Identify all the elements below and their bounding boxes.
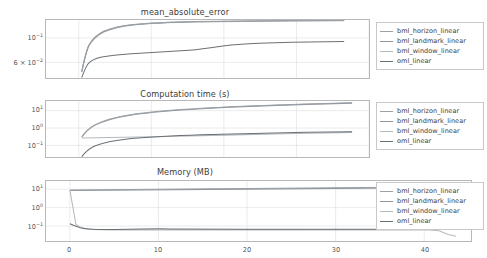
y-tick-label: 100 — [32, 204, 43, 212]
plot-svg — [46, 101, 369, 157]
legend: bml_horizon_linear bml_landmark_linear b… — [376, 102, 484, 150]
y-tick-label: 100 — [32, 124, 43, 132]
line-bml_window_linear — [82, 21, 344, 73]
y-tick-label: 10−1 — [28, 34, 43, 42]
legend-label: bml_window_linear — [397, 207, 460, 215]
y-axis-ticks: 101 100 10−1 — [0, 180, 43, 242]
legend-swatch-icon — [380, 131, 393, 132]
legend-item[interactable]: bml_landmark_linear — [380, 36, 479, 46]
line-bml_horizon_linear — [82, 103, 352, 137]
legend-swatch-icon — [380, 121, 393, 122]
panel-title: Memory (MB) — [0, 167, 370, 177]
legend: bml_horizon_linear bml_landmark_linear b… — [376, 182, 484, 230]
panel-title: Computation time (s) — [0, 89, 370, 99]
legend-label: bml_landmark_linear — [397, 197, 466, 205]
legend-item[interactable]: oml_linear — [380, 56, 479, 66]
y-tick-label: 10−1 — [28, 142, 43, 150]
gridlines — [46, 20, 369, 78]
panel-computation-time: Computation time (s) 101 100 10−1 — [0, 86, 487, 166]
legend-label: bml_window_linear — [397, 47, 460, 55]
legend-label: oml_linear — [397, 57, 431, 65]
y-tick-label: 101 — [32, 106, 43, 114]
legend-swatch-icon — [380, 41, 393, 42]
line-bml_window_linear — [82, 132, 352, 138]
x-tick-label: 40 — [421, 246, 429, 254]
legend-item[interactable]: bml_window_linear — [380, 126, 479, 136]
legend-swatch-icon — [380, 221, 393, 222]
plot-area — [45, 100, 370, 158]
legend-item[interactable]: bml_horizon_linear — [380, 186, 479, 196]
legend: bml_horizon_linear bml_landmark_linear b… — [376, 22, 484, 70]
legend-item[interactable]: oml_linear — [380, 136, 479, 146]
legend-item[interactable]: bml_horizon_linear — [380, 26, 479, 36]
legend-label: bml_landmark_linear — [397, 37, 466, 45]
legend-label: oml_linear — [397, 137, 431, 145]
legend-item[interactable]: bml_window_linear — [380, 206, 479, 216]
plot-area — [45, 19, 370, 79]
legend-label: bml_horizon_linear — [397, 107, 459, 115]
legend-swatch-icon — [380, 201, 393, 202]
x-tick-label: 0 — [67, 246, 71, 254]
y-tick-label: 10−1 — [28, 223, 43, 231]
legend-swatch-icon — [380, 61, 393, 62]
x-tick-label: 20 — [243, 246, 251, 254]
legend-label: bml_window_linear — [397, 127, 460, 135]
plot-svg — [46, 20, 369, 78]
panel-memory: Memory (MB) 101 100 10−1 — [0, 166, 487, 258]
legend-item[interactable]: oml_linear — [380, 216, 479, 226]
y-tick-label: 6 × 10−2 — [14, 59, 43, 67]
benchmark-figure: mean_absolute_error 10−1 6 × 10−2 — [0, 0, 487, 258]
legend-swatch-icon — [380, 111, 393, 112]
x-axis-ticks: 0 10 20 30 40 — [45, 243, 472, 257]
legend-swatch-icon — [380, 211, 393, 212]
legend-item[interactable]: bml_landmark_linear — [380, 116, 479, 126]
legend-item[interactable]: bml_horizon_linear — [380, 106, 479, 116]
line-bml_horizon_linear — [82, 20, 344, 71]
line-bml_landmark_linear — [82, 21, 344, 72]
legend-item[interactable]: bml_window_linear — [380, 46, 479, 56]
legend-swatch-icon — [380, 141, 393, 142]
y-axis-ticks: 10−1 6 × 10−2 — [0, 19, 43, 79]
gridlines — [46, 101, 369, 157]
legend-swatch-icon — [380, 51, 393, 52]
legend-label: bml_horizon_linear — [397, 27, 459, 35]
legend-item[interactable]: bml_landmark_linear — [380, 196, 479, 206]
x-tick-label: 30 — [332, 246, 340, 254]
panel-mean-absolute-error: mean_absolute_error 10−1 6 × 10−2 — [0, 0, 487, 86]
panel-title: mean_absolute_error — [0, 7, 370, 17]
legend-label: bml_horizon_linear — [397, 187, 459, 195]
legend-swatch-icon — [380, 31, 393, 32]
legend-label: bml_landmark_linear — [397, 117, 466, 125]
legend-label: oml_linear — [397, 217, 431, 225]
legend-swatch-icon — [380, 191, 393, 192]
x-tick-label: 10 — [154, 246, 162, 254]
line-oml_linear — [82, 42, 344, 78]
y-axis-ticks: 101 100 10−1 — [0, 100, 43, 158]
series-lines — [82, 20, 344, 77]
y-tick-label: 101 — [32, 185, 43, 193]
